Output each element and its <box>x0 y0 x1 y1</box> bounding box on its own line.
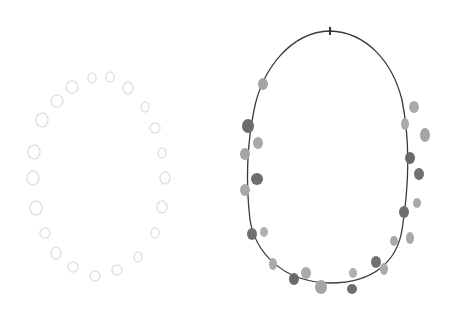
egg-outline <box>248 31 408 283</box>
figure <box>0 0 460 318</box>
left-faint-ring <box>27 72 170 281</box>
drawing-canvas <box>0 0 460 318</box>
egg-dots <box>240 78 430 294</box>
